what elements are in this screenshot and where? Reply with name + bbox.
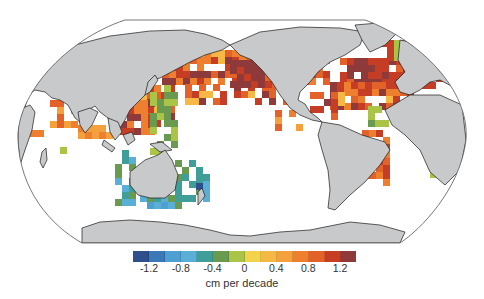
colorbar-tick-label: -0.8: [172, 262, 190, 274]
colorbar: [133, 251, 356, 262]
colorbar-segment: [149, 251, 165, 262]
colorbar-ticks: -1.2-0.8-0.400.40.81.2: [133, 262, 356, 274]
colorbar-segment: [293, 251, 309, 262]
colorbar-tick-label: 0.4: [269, 262, 284, 274]
colorbar-label: cm per decade: [0, 277, 484, 289]
colorbar-segment: [165, 251, 181, 262]
colorbar-tick-label: 0.8: [301, 262, 316, 274]
colorbar-tick-label: 0: [242, 262, 248, 274]
colorbar-tick-label: -0.4: [204, 262, 222, 274]
colorbar-segment: [277, 251, 293, 262]
colorbar-segment: [309, 251, 325, 262]
world-map: [0, 0, 484, 250]
colorbar-segment: [229, 251, 245, 262]
colorbar-segment: [341, 251, 356, 262]
colorbar-segment: [245, 251, 261, 262]
colorbar-segment: [197, 251, 213, 262]
colorbar-segment: [261, 251, 277, 262]
colorbar-tick-label: 1.2: [333, 262, 348, 274]
colorbar-segment: [213, 251, 229, 262]
colorbar-segment: [325, 251, 341, 262]
colorbar-segment: [181, 251, 197, 262]
colorbar-segment: [133, 251, 149, 262]
colorbar-tick-label: -1.2: [140, 262, 158, 274]
